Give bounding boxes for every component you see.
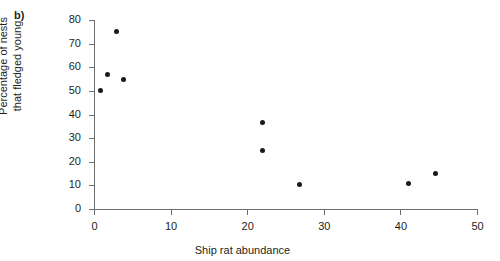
y-axis-title-line-1: Percentage of nests <box>0 0 10 196</box>
y-axis-line <box>94 20 95 210</box>
plot-area: 01020304050607080 01020304050 <box>94 20 477 209</box>
x-tick-label: 20 <box>242 219 254 234</box>
y-tick: 80 <box>89 20 94 21</box>
x-tick: 40 <box>400 210 401 215</box>
y-tick-label: 80 <box>69 12 81 27</box>
x-tick-label: 10 <box>165 219 177 234</box>
y-tick-label: 40 <box>69 107 81 122</box>
x-axis-line <box>94 209 478 210</box>
y-axis-title-line-2: that fledged young <box>10 0 24 196</box>
data-point <box>98 88 103 93</box>
y-tick-label: 20 <box>69 154 81 169</box>
x-tick-label: 0 <box>91 219 97 234</box>
x-tick: 10 <box>171 210 172 215</box>
y-tick: 10 <box>89 185 94 186</box>
data-point <box>121 77 126 82</box>
x-tick-label: 30 <box>318 219 330 234</box>
y-axis-title: Percentage of nests that fledged young <box>0 0 24 196</box>
data-point <box>260 148 265 153</box>
y-tick: 60 <box>89 67 94 68</box>
x-tick: 20 <box>247 210 248 215</box>
y-tick: 50 <box>89 91 94 92</box>
data-point <box>297 182 302 187</box>
x-axis-title: Ship rat abundance <box>0 244 500 256</box>
y-tick-label: 30 <box>69 130 81 145</box>
y-tick: 20 <box>89 162 94 163</box>
x-tick: 30 <box>324 210 325 215</box>
y-tick-label: 70 <box>69 36 81 51</box>
y-tick-label: 50 <box>69 83 81 98</box>
data-point <box>406 181 411 186</box>
x-tick-label: 40 <box>395 219 407 234</box>
y-tick: 70 <box>89 44 94 45</box>
y-tick-label: 0 <box>75 201 81 216</box>
x-tick: 0 <box>94 210 95 215</box>
y-tick-label: 10 <box>69 177 81 192</box>
figure-panel-b: b) 01020304050607080 01020304050 Percent… <box>0 0 500 261</box>
data-point <box>114 29 119 34</box>
x-tick-label: 50 <box>471 219 483 234</box>
data-point <box>433 171 438 176</box>
x-axis-title-text: Ship rat abundance <box>195 244 290 256</box>
y-tick: 40 <box>89 115 94 116</box>
x-tick: 50 <box>477 210 478 215</box>
data-point <box>105 72 110 77</box>
y-tick-label: 60 <box>69 59 81 74</box>
data-point <box>260 120 265 125</box>
y-tick: 30 <box>89 138 94 139</box>
